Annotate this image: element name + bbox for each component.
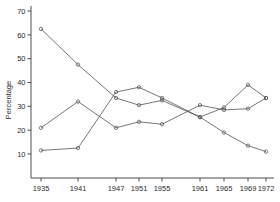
y-axis-ticks: 10203040506070 (17, 7, 31, 159)
axes (31, 6, 274, 178)
x-tick-label: 1947 (108, 184, 125, 193)
x-tick-label: 1941 (70, 184, 87, 193)
series-series-1 (39, 27, 267, 153)
x-tick-label: 1951 (131, 184, 148, 193)
series-series-3 (39, 83, 267, 152)
data-point-marker (39, 126, 42, 129)
x-tick-label: 1961 (192, 184, 209, 193)
line-chart: 10203040506070 1935194119471951195519611… (0, 0, 280, 202)
series-series-2 (39, 96, 267, 129)
x-tick-label: 1969 (240, 184, 257, 193)
y-tick-label: 20 (17, 126, 25, 135)
y-tick-label: 10 (17, 150, 25, 159)
chart-plot-area: 10203040506070 1935194119471951195519611… (0, 0, 280, 202)
series-path (41, 85, 266, 151)
y-tick-label: 60 (17, 31, 25, 40)
x-tick-label: 1965 (216, 184, 233, 193)
x-tick-label: 1955 (154, 184, 171, 193)
y-axis-label: Percentage (4, 81, 13, 119)
x-tick-label: 1972 (258, 184, 275, 193)
x-tick-label: 1935 (33, 184, 50, 193)
y-tick-label: 30 (17, 102, 25, 111)
y-tick-label: 40 (17, 78, 25, 87)
y-tick-label: 50 (17, 54, 25, 63)
data-series (39, 27, 267, 153)
series-path (41, 29, 266, 152)
y-tick-label: 70 (17, 7, 25, 16)
x-axis-ticks: 193519411947195119551961196519691972 (33, 178, 275, 193)
